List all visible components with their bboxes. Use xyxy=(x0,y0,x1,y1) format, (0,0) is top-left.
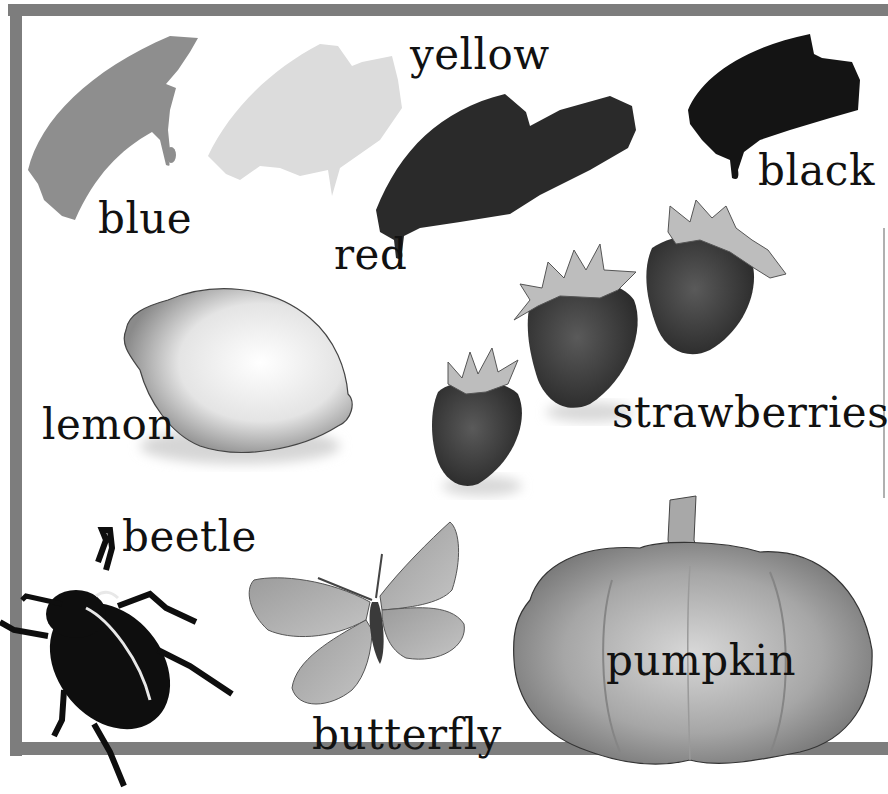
label-black: black xyxy=(758,150,875,192)
label-red: red xyxy=(334,234,407,276)
strawberry-icon xyxy=(432,200,786,496)
butterfly-icon xyxy=(249,522,464,704)
label-beetle: beetle xyxy=(122,516,257,558)
pumpkin-icon xyxy=(514,496,872,764)
label-lemon: lemon xyxy=(42,404,175,446)
blue-paint-stroke-icon xyxy=(28,36,198,220)
label-butterfly: butterfly xyxy=(312,714,502,756)
yellow-paint-stroke-icon xyxy=(208,44,402,196)
beetle-icon xyxy=(0,530,232,786)
red-paint-stroke-icon xyxy=(376,94,636,259)
label-blue: blue xyxy=(98,198,192,240)
label-strawberries: strawberries xyxy=(612,392,888,434)
label-yellow: yellow xyxy=(410,34,550,76)
label-pumpkin: pumpkin xyxy=(606,640,796,682)
